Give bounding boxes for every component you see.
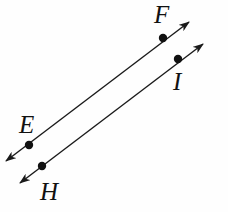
point-H — [38, 162, 46, 170]
geometry-figure: F I E H — [0, 0, 228, 212]
point-label-F: F — [154, 2, 169, 27]
parallel-lines-svg — [0, 0, 228, 212]
line-HI — [20, 44, 203, 183]
point-E — [25, 141, 33, 149]
line-EF — [6, 22, 189, 161]
point-label-E: E — [19, 112, 34, 137]
point-label-I: I — [173, 69, 181, 94]
point-label-H: H — [40, 179, 58, 204]
point-F — [159, 34, 167, 42]
point-I — [174, 55, 182, 63]
